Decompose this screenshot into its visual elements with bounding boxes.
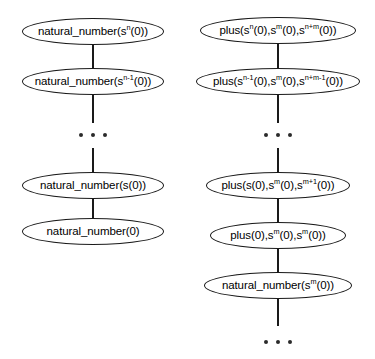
ellipsis-vertical bbox=[264, 132, 292, 138]
node-plus-zero: plus(0),sm(0),sm(0)) bbox=[210, 222, 346, 249]
derivation-diagram: natural_number(sn(0)) natural_number(sn-… bbox=[0, 0, 375, 359]
node-plus-s-n-1: plus(sn-1(0),sm(0),sn+m-1(0)) bbox=[196, 68, 360, 95]
edge-connector bbox=[277, 95, 279, 123]
ellipsis-vertical-trailing bbox=[264, 339, 292, 345]
node-plus-s-1: plus(s(0),sm(0),sm+1(0)) bbox=[206, 172, 350, 199]
node-label: plus(sn-1(0),sm(0),sn+m-1(0)) bbox=[213, 75, 343, 87]
edge-connector bbox=[277, 299, 279, 326]
node-label: natural_number(sn-1(0)) bbox=[35, 75, 152, 87]
node-natural-number-s-n: natural_number(sn(0)) bbox=[22, 18, 164, 45]
node-natural-number-zero: natural_number(0) bbox=[22, 218, 164, 245]
node-label: natural_number(sm(0)) bbox=[222, 279, 334, 291]
node-natural-number-s-n-1: natural_number(sn-1(0)) bbox=[22, 68, 164, 95]
node-label: natural_number(s(0)) bbox=[40, 179, 146, 191]
node-label: natural_number(0) bbox=[47, 225, 140, 237]
node-label: natural_number(sn(0)) bbox=[38, 25, 148, 37]
edge-connector bbox=[277, 148, 279, 172]
node-label: plus(0),sm(0),sm(0)) bbox=[230, 229, 325, 241]
node-label: plus(s(0),sm(0),sm+1(0)) bbox=[221, 179, 334, 191]
node-natural-number-s-0: natural_number(s(0)) bbox=[22, 172, 164, 199]
edge-connector bbox=[92, 95, 94, 123]
edge-connector bbox=[92, 148, 94, 172]
edge-connector bbox=[277, 199, 279, 222]
edge-connector bbox=[92, 199, 94, 218]
node-plus-s-n: plus(sn(0),sm(0),sn+m(0)) bbox=[200, 17, 356, 44]
edge-connector bbox=[92, 45, 94, 68]
edge-connector bbox=[277, 249, 279, 272]
ellipsis-vertical bbox=[79, 132, 107, 138]
edge-connector bbox=[277, 44, 279, 68]
node-label: plus(sn(0),sm(0),sn+m(0)) bbox=[219, 24, 336, 36]
node-natural-number-s-m: natural_number(sm(0)) bbox=[204, 272, 352, 299]
